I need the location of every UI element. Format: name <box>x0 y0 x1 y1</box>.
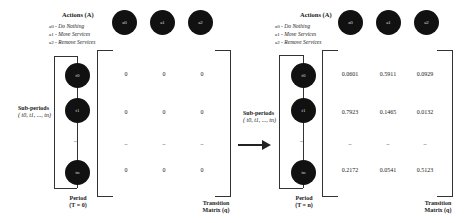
action-node-a1: a1 <box>150 10 175 35</box>
matrix-bracket-right-bottom <box>215 196 231 197</box>
matrix-bracket-left <box>322 50 323 196</box>
matrix-label-line2: Matrix (q) <box>198 206 234 214</box>
action-node-a2: a2 <box>188 10 213 35</box>
period-box-left <box>279 55 280 188</box>
matrix-cell: 0 <box>201 109 204 115</box>
matrix-bracket-right-top <box>437 50 453 51</box>
matrix-cell: 0.0541 <box>380 167 397 173</box>
matrix-cell: 0 <box>163 71 166 77</box>
subperiods-title: Sub-periods <box>243 109 274 117</box>
matrix-bracket-left-top <box>97 50 113 51</box>
period-value: (T = n) <box>292 201 316 209</box>
subperiod-ellipsis: – <box>300 138 303 144</box>
matrix-cell: 0 <box>125 71 128 77</box>
legend-item-move-services: a1 - Move Services <box>275 31 316 37</box>
period-box-bottom <box>279 188 303 189</box>
subperiod-ellipsis: – <box>74 138 77 144</box>
matrix-cell: 0 <box>163 167 166 173</box>
matrix-cell: 0 <box>201 71 204 77</box>
matrix-cell: 0 <box>125 167 128 173</box>
legend-item-remove-services: a2 - Remove Services <box>49 39 95 45</box>
actions-title: Actions (A) <box>62 11 94 18</box>
matrix-cell: 0 <box>163 109 166 115</box>
action-node-a0: a0 <box>338 10 363 35</box>
subperiod-node-tn: tn <box>291 160 316 185</box>
period-box-left <box>54 56 55 188</box>
matrix-cell: 0 <box>201 167 204 173</box>
arrow-head-icon <box>262 140 271 150</box>
period-box-bottom <box>54 188 77 189</box>
matrix-cell: 0.1465 <box>380 109 397 115</box>
action-node-a1: a1 <box>376 10 401 35</box>
subperiod-node-tn: tn <box>65 160 90 185</box>
period-value: (T = 0) <box>66 201 90 209</box>
matrix-cell: – <box>387 141 390 147</box>
matrix-cell: 0.5911 <box>380 71 396 77</box>
matrix-cell: – <box>125 141 128 147</box>
matrix-cell: 0.0132 <box>417 109 434 115</box>
matrix-bracket-right-bottom <box>437 196 453 197</box>
legend-item-remove-services: a2 - Remove Services <box>275 39 321 45</box>
actions-title: Actions (A) <box>300 11 332 18</box>
legend-item-do-nothing: a0 - Do Nothing <box>49 23 84 29</box>
subperiods-title: Sub-periods <box>18 104 49 112</box>
matrix-bracket-left-bottom <box>97 196 113 197</box>
action-node-a2: a2 <box>414 10 439 35</box>
subperiod-node-t1: t1 <box>291 98 316 123</box>
matrix-cell: 0.7923 <box>342 109 359 115</box>
matrix-cell: 0.0929 <box>417 71 434 77</box>
matrix-cell: – <box>349 141 352 147</box>
subperiod-node-t0: t0 <box>291 63 316 88</box>
matrix-cell: 0.5123 <box>417 167 434 173</box>
matrix-label-line2: Matrix (q) <box>420 206 456 214</box>
subperiods-range: ( t0, t1, ..., tn) <box>243 117 276 123</box>
matrix-cell: 0.2172 <box>342 167 359 173</box>
legend-item-do-nothing: a0 - Do Nothing <box>275 23 310 29</box>
action-node-a0: a0 <box>112 10 137 35</box>
matrix-bracket-right <box>230 50 231 196</box>
subperiod-node-t1: t1 <box>65 98 90 123</box>
subperiods-range: ( t0, t1, ..., tn) <box>18 112 51 118</box>
subperiod-node-t0: t0 <box>65 63 90 88</box>
matrix-bracket-right <box>452 50 453 196</box>
matrix-bracket-right-top <box>215 50 231 51</box>
matrix-cell: 0.0601 <box>342 71 359 77</box>
transition-arrow <box>238 144 264 146</box>
matrix-cell: – <box>201 141 204 147</box>
period-box-top <box>54 56 77 57</box>
matrix-bracket-left-bottom <box>322 196 338 197</box>
legend-item-move-services: a1 - Move Services <box>49 31 90 37</box>
matrix-cell: – <box>163 141 166 147</box>
matrix-bracket-left-top <box>322 50 338 51</box>
matrix-bracket-left <box>97 50 98 196</box>
matrix-cell: 0 <box>125 109 128 115</box>
period-box-top <box>279 55 303 56</box>
matrix-cell: – <box>424 141 427 147</box>
